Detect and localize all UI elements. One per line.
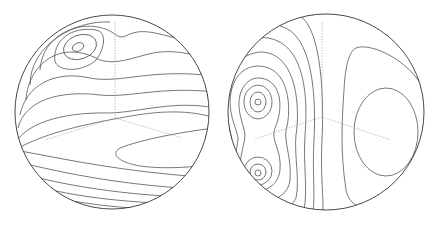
contour-line [116, 128, 215, 168]
contour-line [50, 200, 170, 214]
contour-line [24, 174, 210, 198]
y-axis [115, 118, 182, 138]
right-sphere [219, 14, 425, 220]
contour-line [219, 38, 306, 218]
left-sphere [15, 15, 220, 214]
contour-line [230, 66, 290, 202]
contour-line [60, 30, 100, 64]
contour-line [71, 41, 85, 53]
contour-line [250, 164, 266, 180]
contour-line [354, 88, 418, 176]
contour-line [20, 74, 215, 115]
contour-line [30, 184, 200, 204]
left-contours [15, 22, 220, 215]
contour-line [300, 16, 323, 220]
contour-line [40, 194, 190, 210]
contour-line [15, 150, 215, 178]
figure [0, 0, 436, 225]
contour-line [225, 52, 298, 210]
x-axis [255, 117, 322, 139]
contour-line [250, 92, 266, 112]
contour-line [40, 26, 220, 70]
contour-line [255, 99, 261, 105]
right-contours [219, 16, 425, 220]
contour-line [18, 90, 215, 128]
contour-line [244, 85, 272, 119]
y-axis [322, 117, 391, 140]
contour-line [55, 29, 104, 69]
contour-line [255, 170, 261, 176]
left-axes [45, 22, 182, 140]
x-axis [45, 118, 115, 140]
